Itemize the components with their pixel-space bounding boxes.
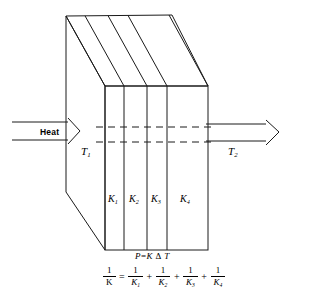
top-line-2 <box>108 16 147 86</box>
fraction-term-1: 1 K1 <box>128 266 143 287</box>
heat-outflow-arrow <box>206 120 279 145</box>
fraction-term-2: 1 K2 <box>156 266 171 287</box>
top-line-1 <box>85 16 124 86</box>
power-equation: P=K Δ T <box>135 252 170 261</box>
top-line-4 <box>169 15 208 86</box>
plus-sign: + <box>173 272 181 282</box>
plus-sign: + <box>200 272 208 282</box>
plus-sign: + <box>145 272 153 282</box>
conductivity-k2-label: K2 <box>129 194 139 204</box>
fraction-lhs: 1 K <box>103 266 116 287</box>
fraction-term-4: 1 K4 <box>211 266 226 287</box>
top-line-3 <box>128 15 167 86</box>
resistance-equation: 1 K = 1 K1 + 1 K2 + 1 K3 + 1 K4 <box>103 266 225 287</box>
conductivity-k4-label: K4 <box>180 194 190 204</box>
heat-flow-dashed-lines <box>96 127 214 142</box>
heat-label: Heat <box>40 128 59 137</box>
slab-top-face <box>66 15 208 86</box>
temperature-t1-label: T1 <box>81 146 91 157</box>
slab-front-face <box>105 86 208 250</box>
temperature-t2-label: T2 <box>228 146 238 157</box>
slab-left-face <box>66 16 105 250</box>
layer-dividers <box>124 86 167 250</box>
equals-sign: = <box>118 272 126 282</box>
fraction-term-3: 1 K3 <box>183 266 198 287</box>
delta-symbol: Δ <box>155 251 161 261</box>
conductivity-k1-label: K1 <box>108 194 118 204</box>
conductivity-k3-label: K3 <box>151 194 161 204</box>
